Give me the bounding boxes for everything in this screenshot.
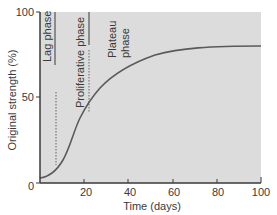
proliferative-phase-label: Proliferative phase bbox=[74, 17, 86, 108]
x-tick-label-40: 40 bbox=[124, 186, 136, 198]
y-tick-label-100: 100 bbox=[16, 6, 34, 18]
strength-over-time-chart: 100 50 0 20 40 60 80 100 Time (days) Ori… bbox=[0, 0, 277, 215]
x-axis-title: Time (days) bbox=[123, 200, 181, 212]
x-tick-label-60: 60 bbox=[168, 186, 180, 198]
lag-phase-label: Lag phase bbox=[41, 11, 53, 62]
x-tick-label-100: 100 bbox=[252, 186, 270, 198]
y-axis-title: Original strength (%) bbox=[6, 50, 18, 151]
y-tick-label-50: 50 bbox=[22, 91, 34, 103]
y-tick-label-0: 0 bbox=[28, 180, 34, 192]
plateau-phase-label-line2: phase bbox=[119, 28, 131, 58]
x-tick-label-20: 20 bbox=[80, 186, 92, 198]
plateau-phase-label-line1: Plateau bbox=[106, 21, 118, 58]
x-tick-label-80: 80 bbox=[212, 186, 224, 198]
